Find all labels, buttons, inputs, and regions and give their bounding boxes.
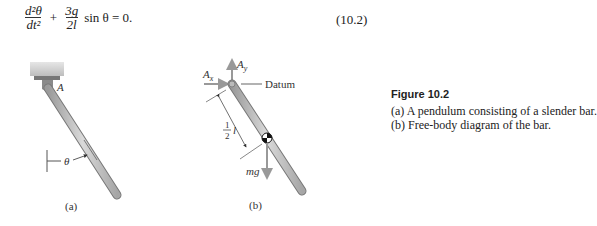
center-of-mass-icon bbox=[262, 133, 272, 143]
angle-arrow bbox=[73, 155, 87, 160]
slender-bar bbox=[48, 88, 117, 195]
panel-a-label: (a) bbox=[65, 200, 78, 213]
panel-b-label: (b) bbox=[249, 199, 262, 212]
ceiling-support bbox=[30, 62, 64, 76]
ay-label: Ay bbox=[236, 58, 248, 73]
pivot-point bbox=[229, 81, 235, 87]
panel-a-pendulum: A θ (a) bbox=[30, 62, 117, 213]
svg-text:1: 1 bbox=[225, 120, 230, 130]
weight-label: mg bbox=[246, 165, 260, 177]
support-bracket bbox=[34, 76, 60, 80]
figure-title: Figure 10.2 bbox=[391, 88, 449, 100]
pivot-label-a: A bbox=[56, 81, 64, 93]
half-length-label: 1 2 l bbox=[223, 120, 236, 141]
svg-text:l: l bbox=[233, 124, 236, 136]
datum-label: Datum bbox=[265, 78, 295, 90]
panel-b-free-body-diagram: Ay Ax Datum 1 2 l mg (b) bbox=[202, 58, 302, 212]
ax-label: Ax bbox=[202, 68, 214, 83]
angle-theta-label: θ bbox=[64, 155, 70, 167]
caption-a: (a) A pendulum consisting of a slender b… bbox=[391, 104, 597, 119]
caption-b: (b) Free-body diagram of the bar. bbox=[391, 118, 551, 133]
svg-text:2: 2 bbox=[225, 131, 230, 141]
